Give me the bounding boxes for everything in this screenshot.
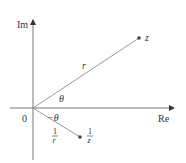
reciprocal-point-den: z xyxy=(87,136,92,145)
negative-angle-label: −θ xyxy=(47,112,59,123)
origin-label: 0 xyxy=(22,113,27,124)
reciprocal-point-num: 1 xyxy=(88,127,92,136)
complex-plane-diagram: Im Re 0 z 1 z r θ −θ 1 r xyxy=(0,0,186,163)
point-reciprocal xyxy=(78,135,82,139)
reciprocal-modulus-num: 1 xyxy=(53,127,57,136)
real-axis-label: Re xyxy=(158,113,170,124)
reciprocal-modulus-den: r xyxy=(53,136,57,145)
imaginary-axis-label: Im xyxy=(17,19,28,30)
point-z xyxy=(137,36,141,40)
vector-z xyxy=(33,38,139,108)
angle-label: θ xyxy=(59,93,64,104)
point-z-label: z xyxy=(144,32,149,43)
modulus-label: r xyxy=(82,60,86,71)
